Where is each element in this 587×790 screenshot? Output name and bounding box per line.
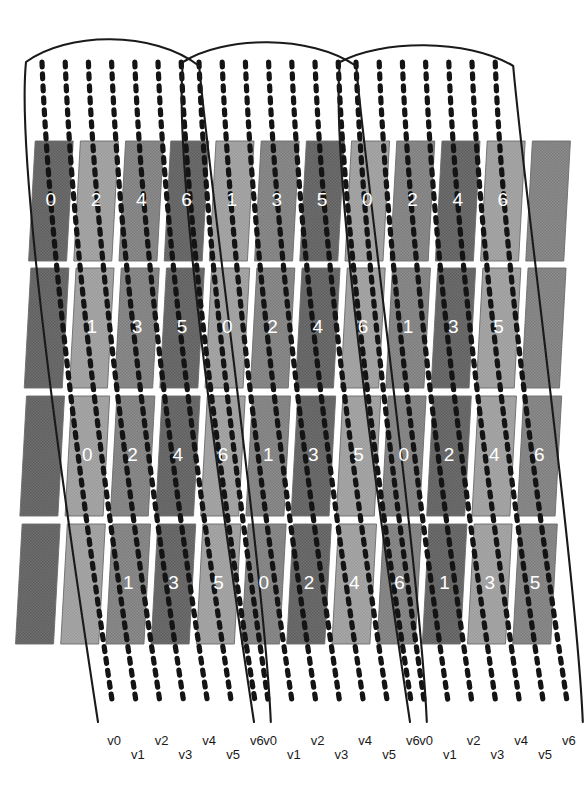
bar-value-label: 4 (136, 189, 147, 210)
grid-bar (20, 396, 65, 516)
bar-value-label: 1 (226, 189, 237, 210)
axis-tick-label: v0 (107, 733, 121, 748)
bar-value-label: 6 (498, 189, 509, 210)
bar-value-label: 5 (213, 572, 224, 593)
bar-value-label: 0 (82, 444, 93, 465)
bar-value-label: 4 (349, 572, 360, 593)
axis-tick-label: v5 (538, 747, 552, 762)
axis-tick-label: v3 (335, 747, 349, 762)
bar-value-label: 1 (403, 316, 414, 337)
bar-value-label: 0 (259, 572, 270, 593)
bar-value-label: 3 (308, 444, 319, 465)
axis-tick-label: v1 (131, 747, 145, 762)
bar-value-label: 3 (448, 316, 459, 337)
axis-tick-label: v2 (467, 733, 481, 748)
figure-canvas: 0246135024613502461350246135024613502461… (0, 0, 587, 790)
bar-value-label: 2 (444, 444, 455, 465)
bar-value-label: 1 (439, 572, 450, 593)
bar-value-label: 5 (317, 189, 328, 210)
bar-value-label: 2 (407, 189, 418, 210)
axis-tick-label: v1 (287, 747, 301, 762)
axis-tick-label: v4 (514, 733, 528, 748)
bar-value-label: 2 (91, 189, 102, 210)
axis-tick-label: v4 (358, 733, 372, 748)
bar-value-label: 4 (173, 444, 184, 465)
axis-tick-label: v5 (226, 747, 240, 762)
bar-value-label: 5 (177, 316, 188, 337)
fan-diagram-svg: 0246135024613502461350246135024613502461… (0, 0, 587, 790)
bar-value-label: 5 (530, 572, 541, 593)
axis-tick-label: v5 (382, 747, 396, 762)
grid-bar (16, 524, 61, 644)
axis-tick-label: v3 (179, 747, 193, 762)
bar-value-label: 0 (399, 444, 410, 465)
axis-tick-label: v3 (491, 747, 505, 762)
bar-value-label: 4 (312, 316, 323, 337)
axis-label-layer: v0v1v2v3v4v5v6v0v1v2v3v4v5v6v0v1v2v3v4v5… (107, 733, 576, 762)
bar-value-label: 3 (132, 316, 143, 337)
axis-tick-label: v0 (419, 733, 433, 748)
bar-value-label: 2 (267, 316, 278, 337)
axis-tick-label: v6 (562, 733, 576, 748)
bar-value-label: 4 (489, 444, 500, 465)
bar-value-label: 0 (222, 316, 233, 337)
bar-value-label: 1 (263, 444, 274, 465)
bar-value-label: 2 (127, 444, 138, 465)
bar-value-label: 1 (123, 572, 134, 593)
bar-value-label: 3 (168, 572, 179, 593)
bar-value-label: 1 (86, 316, 97, 337)
bar-value-label: 0 (362, 189, 373, 210)
axis-tick-label: v4 (202, 733, 216, 748)
bar-value-label: 3 (272, 189, 283, 210)
axis-tick-label: v1 (443, 747, 457, 762)
bar-value-label: 5 (353, 444, 364, 465)
axis-tick-label: v6 (406, 733, 420, 748)
axis-tick-label: v2 (311, 733, 325, 748)
bar-value-label: 6 (394, 572, 405, 593)
bar-value-label: 6 (218, 444, 229, 465)
bar-value-label: 0 (46, 189, 57, 210)
axis-tick-label: v6 (250, 733, 264, 748)
bar-value-label: 4 (452, 189, 463, 210)
bar-value-label: 5 (493, 316, 504, 337)
bar-value-label: 3 (485, 572, 496, 593)
axis-tick-label: v0 (263, 733, 277, 748)
bar-value-label: 6 (181, 189, 192, 210)
bar-value-label: 2 (304, 572, 315, 593)
bar-value-label: 6 (358, 316, 369, 337)
axis-tick-label: v2 (155, 733, 169, 748)
bar-value-label: 6 (534, 444, 545, 465)
